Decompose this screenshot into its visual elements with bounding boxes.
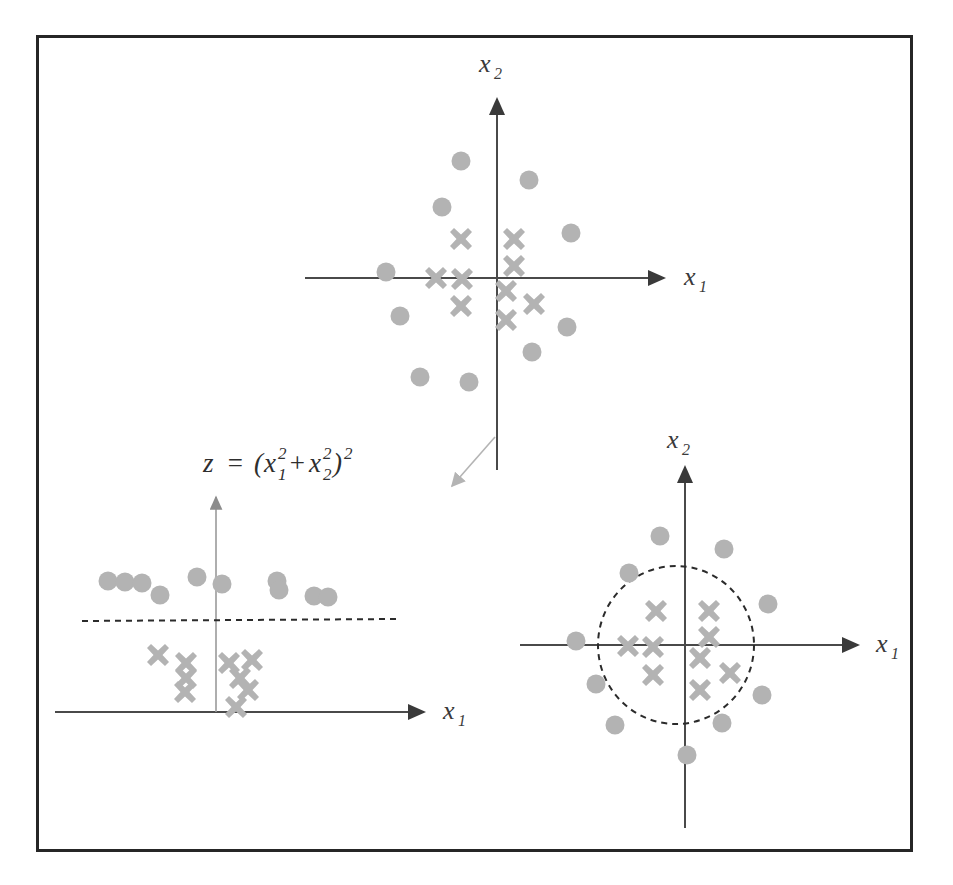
- figure-stage: x 1 x 2: [0, 0, 953, 885]
- figure-border-frame: [36, 35, 913, 852]
